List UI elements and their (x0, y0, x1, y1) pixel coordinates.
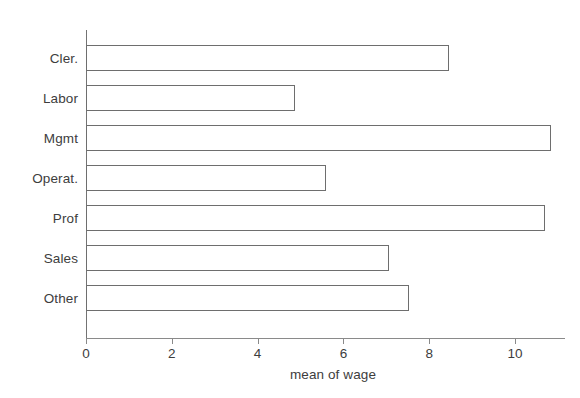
x-axis-title: mean of wage (0, 367, 580, 382)
x-tick-label-4: 4 (238, 346, 278, 361)
category-label-other: Other (0, 278, 78, 318)
x-tick-4 (258, 338, 259, 344)
category-label-labor: Labor (0, 78, 78, 118)
x-tick-0 (86, 338, 87, 344)
x-tick-6 (343, 338, 344, 344)
x-tick-10 (515, 338, 516, 344)
bar-operat (86, 165, 326, 191)
x-tick-label-10: 10 (495, 346, 535, 361)
x-tick-label-2: 2 (152, 346, 192, 361)
category-label-operat: Operat. (0, 158, 78, 198)
x-tick-2 (172, 338, 173, 344)
category-label-prof: Prof (0, 198, 78, 238)
category-label-cler: Cler. (0, 38, 78, 78)
bar-prof (86, 205, 545, 231)
bar-chart: Cler.LaborMgmtOperat.ProfSalesOther 0246… (0, 0, 580, 398)
x-tick-label-8: 8 (409, 346, 449, 361)
bar-sales (86, 245, 389, 271)
bar-other (86, 285, 409, 311)
x-tick-label-0: 0 (66, 346, 106, 361)
x-tick-8 (429, 338, 430, 344)
category-label-mgmt: Mgmt (0, 118, 78, 158)
category-label-sales: Sales (0, 238, 78, 278)
bar-labor (86, 85, 295, 111)
x-axis-title-text: mean of wage (290, 367, 376, 382)
bar-cler (86, 45, 449, 71)
x-tick-label-6: 6 (323, 346, 363, 361)
bar-mgmt (86, 125, 551, 151)
x-axis-line (86, 338, 565, 339)
